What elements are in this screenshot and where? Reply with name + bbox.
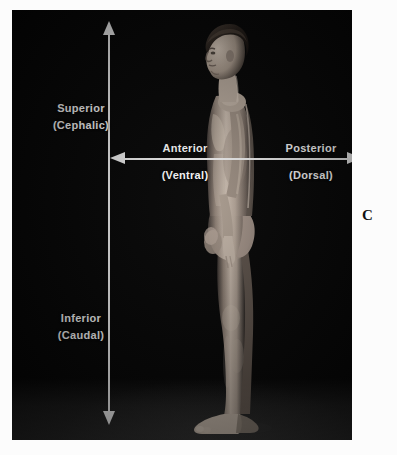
label-anterior-alt: (Ventral) xyxy=(130,167,240,184)
label-superior-term: Superior xyxy=(57,102,105,114)
label-inferior-term: Inferior xyxy=(61,312,101,324)
label-posterior-term: Posterior xyxy=(256,140,352,157)
label-anterior-term: Anterior xyxy=(130,140,240,157)
arrow-down-icon xyxy=(103,411,115,425)
label-inferior-alt: (Caudal) xyxy=(58,329,104,341)
label-posterior-alt: (Dorsal) xyxy=(256,167,352,184)
panel-letter: C xyxy=(362,207,373,224)
vertical-axis-line xyxy=(108,34,110,423)
label-anterior: Anterior (Ventral) xyxy=(130,140,240,184)
label-inferior: Inferior (Caudal) xyxy=(26,310,136,344)
label-superior: Superior (Cephalic) xyxy=(26,100,136,134)
label-posterior: Posterior (Dorsal) xyxy=(256,140,352,184)
anatomy-photograph: Superior (Cephalic) Inferior (Caudal) An… xyxy=(12,10,352,440)
arrow-left-icon xyxy=(110,152,125,164)
human-figure-lateral xyxy=(180,18,290,436)
label-superior-alt: (Cephalic) xyxy=(53,119,109,131)
figure-plate: Superior (Cephalic) Inferior (Caudal) An… xyxy=(0,0,397,455)
arrow-up-icon xyxy=(103,21,115,35)
